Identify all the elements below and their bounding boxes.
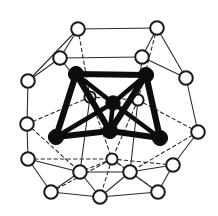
outer-cage-atom (21, 152, 35, 166)
outer-cage-atom (106, 153, 117, 164)
outer-cage-atom (166, 158, 180, 172)
outer-cage-atom (150, 21, 164, 35)
outer-cage-atom (20, 117, 34, 131)
inner-cluster-atom (152, 130, 167, 145)
outer-cage-atom (123, 165, 137, 179)
inner-cluster-bond (76, 74, 146, 75)
inner-cluster-atom (138, 67, 153, 82)
outer-cage-atom (191, 125, 205, 139)
inner-cluster-atom (68, 66, 83, 81)
inner-cluster-atom (48, 129, 63, 144)
outer-cage-atom (93, 190, 107, 204)
outer-cage-atom (135, 50, 149, 64)
outer-cage-atom (53, 51, 67, 65)
inner-cluster-atom (102, 123, 117, 138)
inner-cluster-atom (106, 96, 120, 110)
outer-cage-atom (44, 185, 58, 199)
figure-root: Polyhedral cluster structure Ball-and-st… (0, 0, 218, 216)
outer-cage-atom (21, 74, 35, 88)
outer-cage-atom (71, 22, 85, 36)
cluster-structure-diagram: Polyhedral cluster structure Ball-and-st… (0, 0, 218, 216)
outer-cage-atom (179, 71, 193, 85)
outer-cage-atom (151, 185, 165, 199)
outer-cage-atom (73, 165, 87, 179)
